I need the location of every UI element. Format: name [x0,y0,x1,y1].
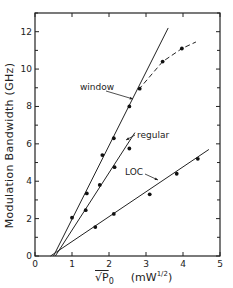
fit-line-regular [55,133,135,256]
x-tick-label: 3 [143,259,149,269]
saturation-curve [139,42,196,90]
data-point-regular [84,208,88,212]
y-tick-label: 12 [21,27,32,37]
x-axis-label-units: (mW [131,271,157,284]
x-axis-label-exp: 1/2 [157,270,168,278]
data-point-loc [148,192,152,196]
x-tick-label: 5 [217,259,223,269]
series-annotations: windowregularLOC [80,82,169,180]
fit-line-loc [51,149,209,256]
data-point-window [161,60,165,64]
x-axis-label-sub: 0 [109,277,114,286]
x-tick-label: 1 [69,259,75,269]
data-point-loc [112,212,116,216]
data-point-window [85,191,89,195]
x-tick-label: 2 [106,259,112,269]
annotation-loc: LOC [125,167,143,177]
data-point-regular [113,165,117,169]
x-axis-label-close: ) [168,271,172,284]
fit-line-window [54,28,169,256]
axis-ticks [35,13,220,256]
x-axis-label: √P0 (mW1/2) [95,270,172,286]
plot-frame [35,13,220,256]
data-point-regular [127,147,131,151]
data-point-window [112,136,116,140]
data-points [70,47,200,229]
data-point-window [127,105,131,109]
data-point-loc [196,157,200,161]
annotation-regular: regular [137,130,169,140]
data-point-loc [93,225,97,229]
x-tick-label: 0 [32,259,38,269]
y-axis-label-text: Modulation Bandwidth (GHz) [4,62,17,228]
annotation-window: window [80,82,114,92]
plot-axes [35,13,220,256]
data-point-window [100,153,104,157]
tick-labels: 012345024681012 [21,27,223,269]
data-point-window [70,216,74,220]
leader-line [106,91,133,99]
y-tick-label: 8 [26,101,32,111]
fit-lines [51,28,209,256]
data-point-window [180,47,184,51]
x-axis-label-main: √P [95,271,109,284]
x-tick-label: 4 [180,259,186,269]
chart-canvas: 012345024681012 windowregularLOC [0,0,233,288]
y-axis-label: Modulation Bandwidth (GHz) [2,55,18,235]
data-point-window [138,87,142,91]
data-point-loc [175,172,179,176]
y-tick-label: 0 [26,251,32,261]
y-tick-label: 10 [21,64,33,74]
y-tick-label: 4 [26,176,32,186]
data-point-regular [98,183,102,187]
y-tick-label: 2 [26,214,32,224]
y-tick-label: 6 [26,139,32,149]
